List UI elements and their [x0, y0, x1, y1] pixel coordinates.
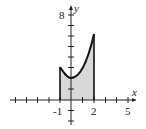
area-under-curve-plot: 8 y x -1 2 5 [0, 0, 146, 129]
x-axis-label: x [131, 86, 137, 98]
shaded-region [60, 34, 94, 100]
x-tick-label-5: 5 [125, 105, 131, 117]
x-axis-arrow-icon [132, 98, 136, 102]
y-axis-arrow-icon [69, 5, 73, 10]
y-tick-label-8: 8 [59, 9, 65, 21]
x-tick-label-neg1: -1 [53, 105, 62, 117]
x-tick-label-2: 2 [91, 105, 97, 117]
y-axis-label: y [73, 2, 79, 14]
